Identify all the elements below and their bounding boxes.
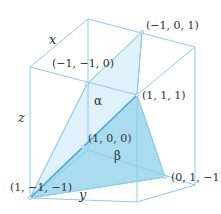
axis-label-z: z (17, 110, 25, 125)
axis-label-y: y (78, 187, 87, 202)
label-point-1-neg1-neg1: (1, −1, −1) (10, 181, 72, 194)
label-point-1-1-1: (1, 1, 1) (142, 89, 186, 102)
label-point-0-1-neg1: (0, 1, −1) (171, 171, 221, 184)
axis-label-x: x (49, 32, 57, 47)
plane-alpha-label: α (94, 94, 102, 108)
label-point-neg1-neg1-0: (−1, −1, 0) (52, 57, 114, 70)
label-point-neg1-0-1: (−1, 0, 1) (146, 19, 199, 32)
label-point-1-0-0: (1, 0, 0) (88, 132, 132, 145)
plane-beta-label: β (114, 149, 121, 163)
cube-planes-diagram: x y z α β (−1, −1, 0) (−1, 0, 1) (1, 1, … (0, 0, 221, 214)
